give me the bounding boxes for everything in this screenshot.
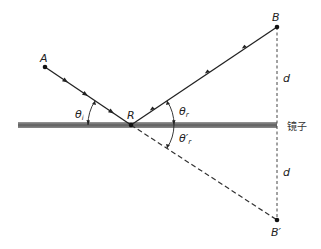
point-R <box>129 123 134 128</box>
label-theta-i: θi <box>75 108 84 122</box>
label-A: A <box>39 52 48 65</box>
label-d-upper: d <box>283 72 291 85</box>
reflection-diagram: A R B B′ θi θr θ′r d d 镜子 <box>0 0 321 249</box>
point-B <box>275 25 280 30</box>
virtual-ray-dashed-line <box>131 125 277 220</box>
label-mirror: 镜子 <box>287 120 307 132</box>
mirror-surface <box>18 122 277 128</box>
point-A <box>43 65 48 70</box>
label-R: R <box>127 109 135 122</box>
label-theta-r: θr <box>179 105 190 119</box>
label-theta-r-prime: θ′r <box>179 132 192 146</box>
label-B-prime: B′ <box>271 226 282 239</box>
label-d-lower: d <box>283 166 291 179</box>
point-B-prime <box>275 218 280 223</box>
reflected-ray-arrows <box>150 45 247 111</box>
reflected-ray <box>131 27 277 125</box>
label-B: B <box>272 11 280 24</box>
